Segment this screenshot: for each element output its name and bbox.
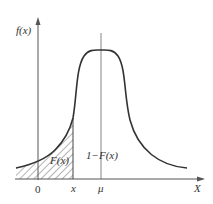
x-axis-arrow-icon: [197, 177, 205, 182]
x-mark-label: x: [71, 183, 76, 194]
y-axis-arrow-icon: [36, 17, 41, 25]
mean-label: μ: [98, 183, 104, 194]
cdf-area-label: F(x): [50, 155, 69, 166]
origin-label: 0: [35, 184, 41, 195]
pdf-diagram: f(x) X 0 x μ F(x) 1−F(x): [0, 0, 213, 204]
tail-area-label: 1−F(x): [86, 150, 118, 161]
x-axis-label: X: [194, 183, 201, 194]
cdf-hatched-area: [16, 118, 73, 179]
diagram-canvas: [0, 0, 213, 204]
y-axis-label: f(x): [16, 25, 31, 36]
